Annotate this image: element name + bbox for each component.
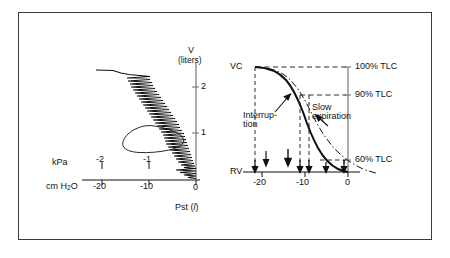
slow-expiration-annotation: Slow expiration bbox=[312, 103, 351, 122]
right-x-tick-label--10: -10 bbox=[296, 178, 309, 187]
left-x-tick-label-cmh2o--20: -20 bbox=[93, 182, 106, 191]
right-x-tick-label--20: -20 bbox=[253, 178, 266, 187]
cmh2o-label-pre: cm H bbox=[46, 181, 67, 191]
left-x-axis-title: Pst (l) bbox=[175, 203, 199, 212]
left-y-tick-label-0: 0 bbox=[193, 183, 198, 192]
tlc-label-100: 100% TLC bbox=[355, 62, 397, 71]
tlc-label-90: 90% TLC bbox=[355, 90, 392, 99]
slow-expiration-annotation-line2: expiration bbox=[312, 112, 351, 121]
interruption-annotation-line2: tion bbox=[243, 120, 277, 129]
left-y-tick-label-2: 2 bbox=[201, 82, 206, 91]
left-x-axis-unit-kpa: kPa bbox=[52, 158, 68, 167]
interruption-leader-arrow bbox=[275, 94, 291, 112]
left-x-axis-unit-cmh2o: cm H2O bbox=[46, 182, 78, 192]
cmh2o-label-post: O bbox=[71, 181, 78, 191]
axis-arrow--6 bbox=[323, 162, 328, 173]
pst-label-post: ) bbox=[196, 202, 199, 212]
left-x-tick-label-kpa--2: -2 bbox=[96, 155, 104, 164]
interruption-annotation: Interrup- tion bbox=[243, 111, 277, 130]
floating-arrow--19 bbox=[263, 151, 268, 166]
axis-arrow--20 bbox=[252, 160, 257, 173]
left-x-tick-label-cmh2o--10: -10 bbox=[140, 182, 153, 191]
right-x-tick-label-0: 0 bbox=[345, 178, 350, 187]
left-x-tick-label-kpa--1: -1 bbox=[143, 155, 151, 164]
right-y-label-vc: VC bbox=[230, 62, 243, 71]
left-y-axis-title-line2: (liters) bbox=[178, 56, 202, 65]
pst-label-pre: Pst ( bbox=[175, 202, 194, 212]
figure-drawing bbox=[0, 0, 450, 258]
left-y-tick-label-1: 1 bbox=[201, 128, 206, 137]
right-panel-axis-arrows bbox=[252, 149, 346, 173]
axis-arrow--12-8 bbox=[297, 160, 302, 173]
tlc-label-60: 60% TLC bbox=[355, 155, 392, 164]
figure-root: V (liters) 2 1 0 kPa -2 -1 cm H2O -20 -1… bbox=[0, 0, 450, 258]
right-y-label-rv: RV bbox=[230, 167, 242, 176]
floating-arrow--14-6 bbox=[285, 149, 291, 166]
axis-arrow--10-8 bbox=[306, 160, 311, 173]
